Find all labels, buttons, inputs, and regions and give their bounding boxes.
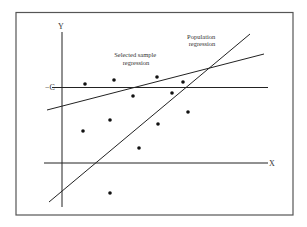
data-point bbox=[131, 94, 135, 98]
population-regression-line bbox=[49, 34, 250, 202]
population-regression-label: Population regression bbox=[187, 33, 217, 47]
data-point bbox=[156, 122, 160, 126]
data-point bbox=[108, 118, 112, 122]
data-point bbox=[108, 191, 112, 195]
c-label: −C bbox=[45, 83, 55, 92]
sample-regression-line bbox=[47, 54, 264, 110]
data-point bbox=[81, 129, 85, 133]
data-point bbox=[155, 75, 159, 79]
data-point bbox=[137, 146, 141, 150]
data-point bbox=[186, 110, 190, 114]
data-point bbox=[112, 78, 116, 82]
regression-diagram: Y X −C Selected sample regression Popula… bbox=[0, 0, 307, 227]
data-points bbox=[81, 75, 190, 195]
data-point bbox=[83, 82, 87, 86]
data-point bbox=[170, 91, 174, 95]
y-axis-label: Y bbox=[58, 22, 64, 31]
sample-regression-label: Selected sample regression bbox=[114, 51, 158, 66]
x-axis-label: X bbox=[269, 159, 275, 168]
data-point bbox=[181, 80, 185, 84]
